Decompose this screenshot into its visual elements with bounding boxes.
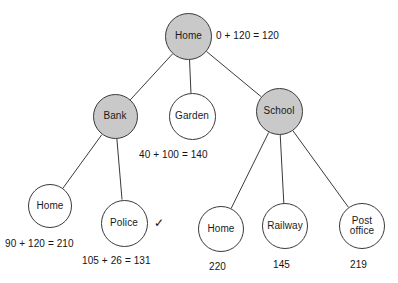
goal-check-icon: ✓ [154, 217, 164, 229]
tree-node-label: Home [34, 201, 65, 211]
tree-edge [117, 139, 122, 200]
tree-edge [231, 133, 268, 209]
tree-node-cost-bank-home: 90 + 120 = 210 [5, 238, 74, 249]
tree-edge [190, 60, 191, 93]
tree-node-label: Bank [101, 111, 128, 121]
tree-node-bank-home[interactable]: Home [28, 184, 72, 228]
tree-edge [63, 135, 102, 188]
tree-node-root-home[interactable]: Home [165, 13, 212, 60]
tree-node-label: Home [173, 31, 204, 41]
tree-edge [293, 131, 349, 208]
tree-node-cost-school-home: 220 [209, 261, 226, 272]
tree-node-bank[interactable]: Bank [93, 94, 138, 139]
tree-edge [130, 54, 172, 100]
tree-node-railway[interactable]: Railway [262, 203, 308, 249]
tree-node-school-home[interactable]: Home [198, 206, 244, 252]
tree-node-label: Home [205, 224, 236, 234]
tree-node-label: Garden [173, 111, 211, 121]
tree-node-cost-railway: 145 [273, 259, 290, 270]
tree-node-label: School [261, 106, 296, 116]
tree-edge [280, 135, 284, 203]
tree-node-police[interactable]: Police [101, 200, 148, 247]
tree-node-school[interactable]: School [256, 88, 303, 135]
tree-node-cost-garden: 40 + 100 = 140 [139, 149, 208, 160]
tree-node-label: Railway [265, 221, 305, 231]
search-tree-diagram: Home0 + 120 = 120BankGarden40 + 100 = 14… [0, 0, 398, 283]
tree-node-post-office[interactable]: Postoffice [339, 203, 385, 249]
tree-node-garden[interactable]: Garden [169, 93, 216, 140]
tree-node-label: Police [108, 218, 140, 228]
tree-node-cost-police: 105 + 26 = 131 [82, 255, 151, 266]
tree-node-cost-root-home: 0 + 120 = 120 [216, 30, 279, 41]
tree-node-cost-post-office: 219 [350, 259, 367, 270]
tree-edge [207, 52, 261, 97]
tree-node-label: Postoffice [348, 216, 376, 236]
